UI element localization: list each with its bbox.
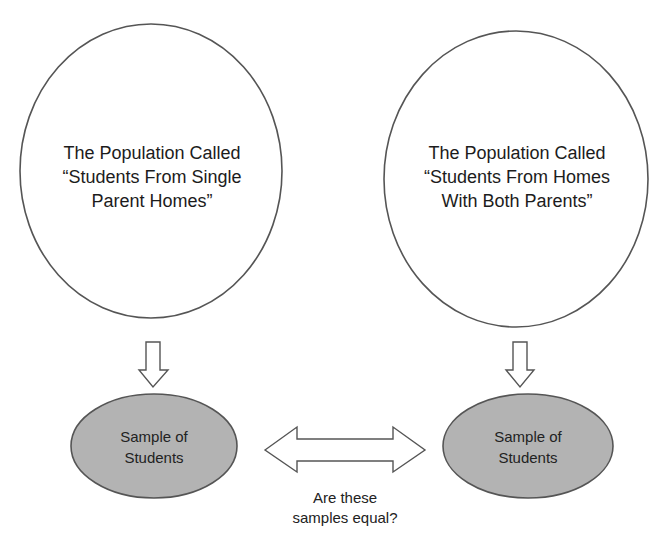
comparison-caption: Are these samples equal?	[265, 488, 425, 528]
population-label-line: The Population Called	[402, 141, 632, 165]
sample-label-line: Students	[84, 447, 224, 468]
population-label-line: Parent Homes”	[37, 189, 267, 213]
population-label-single-parent: The Population Called “Students From Sin…	[37, 141, 267, 213]
population-label-line: With Both Parents”	[402, 189, 632, 213]
caption-line: Are these	[265, 488, 425, 508]
down-arrow-icon	[506, 342, 534, 387]
double-headed-arrow-icon	[265, 427, 425, 472]
sample-label-line: Students	[458, 447, 598, 468]
sample-label-line: Sample of	[458, 426, 598, 447]
population-label-line: The Population Called	[37, 141, 267, 165]
sample-label-single-parent: Sample of Students	[84, 426, 224, 468]
population-label-both-parents: The Population Called “Students From Hom…	[402, 141, 632, 213]
population-label-line: “Students From Homes	[402, 165, 632, 189]
sample-label-line: Sample of	[84, 426, 224, 447]
caption-line: samples equal?	[265, 508, 425, 528]
down-arrow-icon	[139, 342, 168, 387]
sample-label-both-parents: Sample of Students	[458, 426, 598, 468]
population-label-line: “Students From Single	[37, 165, 267, 189]
